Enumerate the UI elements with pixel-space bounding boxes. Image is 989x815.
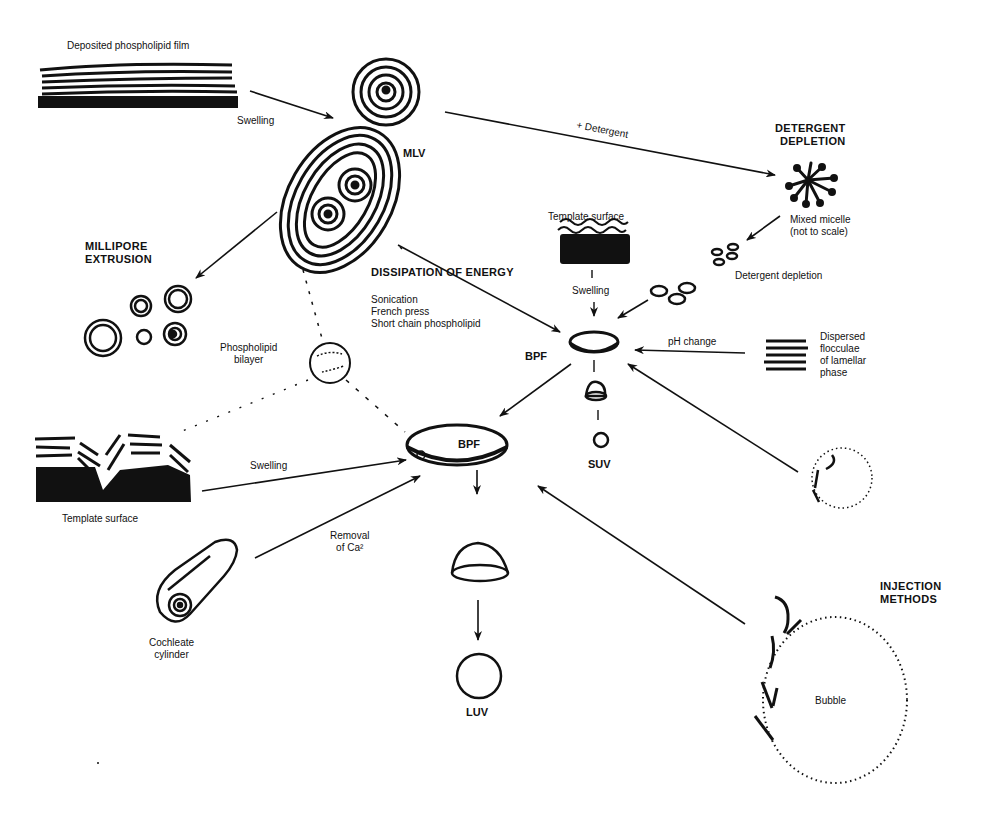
label-bpf-small: BPF	[525, 350, 547, 362]
label-suv: SUV	[588, 458, 611, 470]
label-french-press: French press	[371, 306, 429, 318]
arrow-millipore	[196, 212, 277, 278]
lamellar-flocculae-icon	[764, 341, 808, 369]
mlv-small-icon	[353, 59, 419, 125]
label-injection-methods: INJECTION METHODS	[880, 580, 941, 606]
phospholipid-film-icon	[38, 64, 238, 108]
bpf-small-icon	[570, 332, 618, 352]
arrow-swelling-film	[250, 91, 333, 118]
label-luv: LUV	[466, 706, 488, 718]
cochleate-cylinder-icon	[157, 540, 237, 622]
phospholipid-bilayer-icon	[310, 343, 350, 383]
label-bpf-large: BPF	[458, 438, 480, 450]
bpf-large-icon	[407, 425, 507, 465]
label-sonication: Sonication	[371, 294, 418, 306]
bubble-icon	[755, 597, 907, 783]
arrow-detergent	[445, 112, 775, 175]
label-millipore-extrusion: MILLIPORE EXTRUSION	[85, 240, 152, 266]
label-swelling-bottom: Swelling	[250, 460, 287, 472]
label-mixed-micelle: Mixed micelle (not to scale)	[790, 214, 851, 238]
extruded-vesicles-icon	[85, 286, 191, 356]
label-swelling-top: Swelling	[572, 285, 609, 297]
label-bubble: Bubble	[815, 695, 846, 707]
label-short-chain-phospholipid: Short chain phospholipid	[371, 318, 481, 330]
suv-icon	[594, 433, 608, 447]
label-dispersed-flocculae: Dispersed flocculae of lamellar phase	[820, 331, 866, 379]
label-swelling-film: Swelling	[237, 115, 274, 127]
label-detergent-depletion-header: DETERGENT DEPLETION	[775, 122, 846, 148]
label-phospholipid-bilayer: Phospholipid bilayer	[220, 342, 277, 366]
injection-small-icon	[812, 448, 872, 508]
label-template-surface-bottom: Template surface	[62, 513, 138, 525]
luv-icon	[457, 654, 501, 698]
label-cochleate-cylinder: Cochleate cylinder	[149, 637, 194, 661]
mixed-micelle-icon	[787, 163, 837, 207]
label-dissipation-of-energy: DISSIPATION OF ENERGY	[371, 266, 514, 279]
label-mlv: MLV	[403, 147, 425, 159]
label-removal-of-ca: Removal of Ca²	[330, 530, 369, 554]
label-ph-change: pH change	[668, 336, 716, 348]
label-deposited-film: Deposited phospholipid film	[67, 40, 189, 52]
label-template-surface-top: Template surface	[548, 211, 624, 223]
template-surface-top-icon	[558, 219, 630, 264]
luv-intermediate-icon	[452, 543, 508, 581]
detergent-discs-icon	[651, 244, 738, 304]
template-surface-bottom-icon	[35, 435, 191, 502]
suv-intermediate-icon	[586, 382, 606, 400]
label-detergent-depletion: Detergent depletion	[735, 270, 822, 282]
